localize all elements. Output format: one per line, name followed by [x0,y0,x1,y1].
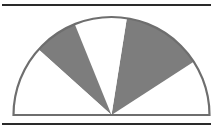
semicircle-diagram [0,0,223,129]
sector-group [14,17,210,115]
